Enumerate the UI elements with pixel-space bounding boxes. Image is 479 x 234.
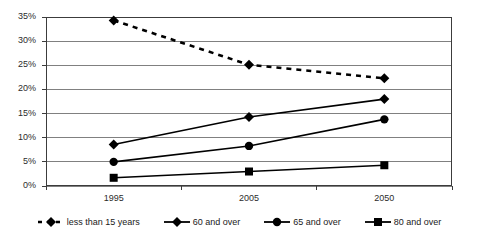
data-point-marker bbox=[379, 94, 389, 104]
legend-item: 80 and over bbox=[365, 217, 442, 227]
data-point-marker bbox=[380, 115, 388, 123]
y-axis-label: 20% bbox=[2, 84, 36, 93]
legend-point-marker bbox=[172, 217, 182, 227]
plot-border bbox=[47, 18, 452, 186]
legend-item: less than 15 years bbox=[38, 217, 140, 227]
x-axis-label: 1995 bbox=[84, 194, 144, 203]
y-axis-label: 0% bbox=[2, 181, 36, 190]
data-point-marker bbox=[109, 139, 119, 149]
legend-label: 80 and over bbox=[394, 217, 442, 227]
y-axis-label: 35% bbox=[2, 12, 36, 21]
chart-legend: less than 15 years60 and over65 and over… bbox=[0, 213, 479, 231]
legend-item: 65 and over bbox=[264, 217, 341, 227]
legend-label: less than 15 years bbox=[67, 217, 140, 227]
y-axis-label: 25% bbox=[2, 60, 36, 69]
y-axis-label: 30% bbox=[2, 36, 36, 45]
legend-point-marker bbox=[46, 217, 56, 227]
x-axis-label: 2005 bbox=[219, 194, 279, 203]
legend-point-marker bbox=[374, 218, 382, 226]
data-point-marker bbox=[245, 168, 253, 176]
x-axis-ticks bbox=[46, 186, 452, 190]
chart-series-2 bbox=[109, 94, 390, 149]
legend-label: 60 and over bbox=[193, 217, 241, 227]
chart-series-3 bbox=[109, 115, 388, 166]
data-point-marker bbox=[110, 174, 118, 182]
data-point-marker bbox=[380, 161, 388, 169]
legend-marker-diamond-icon bbox=[38, 217, 64, 227]
data-point-marker bbox=[245, 142, 253, 150]
data-point-marker bbox=[109, 158, 117, 166]
legend-marker-diamond-icon bbox=[164, 217, 190, 227]
chart-container: 0%5%10%15%20%25%30%35% 199520052050 less… bbox=[0, 0, 479, 234]
y-axis-label: 5% bbox=[2, 157, 36, 166]
y-axis-label: 10% bbox=[2, 133, 36, 142]
legend-label: 65 and over bbox=[293, 217, 341, 227]
data-point-marker bbox=[379, 73, 389, 83]
series-line bbox=[114, 119, 385, 161]
legend-marker-square-icon bbox=[365, 217, 391, 227]
chart-series-4 bbox=[110, 161, 389, 182]
y-axis-ticks bbox=[42, 17, 46, 186]
legend-point-marker bbox=[273, 218, 281, 226]
chart-series-1 bbox=[109, 15, 390, 83]
data-point-marker bbox=[244, 60, 254, 70]
legend-item: 60 and over bbox=[164, 217, 241, 227]
y-axis-label: 15% bbox=[2, 109, 36, 118]
legend-marker-circle-icon bbox=[264, 217, 290, 227]
gridlines bbox=[46, 17, 452, 186]
x-axis-label: 2050 bbox=[354, 194, 414, 203]
